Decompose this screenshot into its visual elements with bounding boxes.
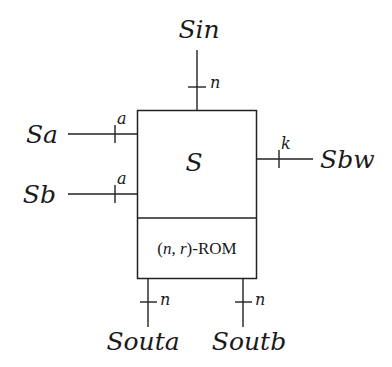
- port-sin: n Sin: [178, 15, 220, 110]
- block-diagram: S (n, r)-ROM n Sin a Sa a Sb k Sbw n Sou…: [0, 0, 392, 367]
- sa-label: Sa: [26, 120, 58, 149]
- soutb-label: Soutb: [212, 327, 286, 356]
- rom-label: (n, r)-ROM: [157, 239, 236, 258]
- s-block-label: S: [185, 148, 202, 177]
- port-sbw: k Sbw: [257, 134, 375, 174]
- sbw-width-label: k: [281, 134, 291, 153]
- sa-width-label: a: [117, 109, 127, 128]
- sb-label: Sb: [23, 180, 56, 209]
- port-soutb: n Soutb: [212, 279, 286, 357]
- port-sa: a Sa: [26, 109, 138, 149]
- sb-width-label: a: [117, 169, 127, 188]
- port-sb: a Sb: [23, 169, 138, 209]
- sin-label: Sin: [178, 15, 219, 44]
- soutb-width-label: n: [255, 290, 265, 309]
- souta-label: Souta: [106, 327, 179, 356]
- sin-width-label: n: [210, 73, 220, 92]
- souta-width-label: n: [160, 290, 170, 309]
- port-souta: n Souta: [106, 279, 179, 357]
- sbw-label: Sbw: [320, 145, 375, 174]
